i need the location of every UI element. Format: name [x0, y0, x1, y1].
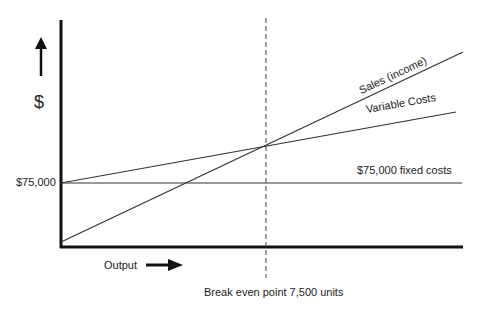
right-arrow-icon — [146, 259, 183, 271]
fixed-costs-label: $75,000 fixed costs — [357, 164, 452, 176]
break-even-chart — [0, 0, 478, 310]
up-arrow-icon — [35, 37, 47, 76]
y-axis-label: $ — [34, 92, 44, 113]
sales-line — [61, 52, 463, 242]
x-axis-label: Output — [104, 259, 137, 271]
y-tick-label: $75,000 — [16, 176, 56, 188]
break-even-label: Break even point 7,500 units — [204, 286, 343, 298]
